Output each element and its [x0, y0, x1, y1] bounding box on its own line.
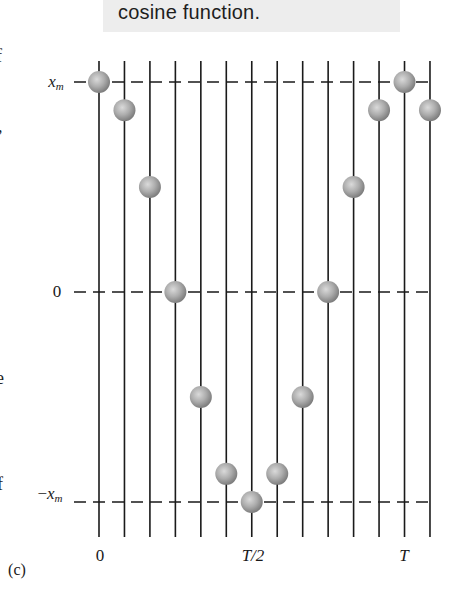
oscillation-diagram: [0, 0, 462, 600]
x-label-half-period: T/2: [242, 546, 265, 566]
time-grid-lines: [99, 61, 430, 537]
oscillator-ball: [88, 71, 110, 93]
oscillator-ball: [215, 463, 237, 485]
oscillator-ball: [343, 176, 365, 198]
x-label-zero: 0: [96, 546, 105, 566]
oscillator-ball: [317, 281, 339, 303]
x-label-period: T: [399, 546, 408, 566]
oscillator-ball: [292, 386, 314, 408]
oscillator-ball: [419, 99, 441, 121]
oscillator-ball: [266, 463, 288, 485]
panel-label: (c): [8, 561, 26, 579]
y-label-xm: xm: [48, 72, 64, 92]
y-label-neg-xm: −xm: [37, 484, 62, 504]
oscillator-ball: [241, 491, 263, 513]
oscillator-ball: [139, 176, 161, 198]
y-label-zero: 0: [53, 282, 62, 302]
oscillator-ball: [368, 99, 390, 121]
oscillator-ball: [164, 281, 186, 303]
oscillator-ball: [394, 71, 416, 93]
oscillator-ball: [190, 386, 212, 408]
oscillator-ball: [113, 99, 135, 121]
